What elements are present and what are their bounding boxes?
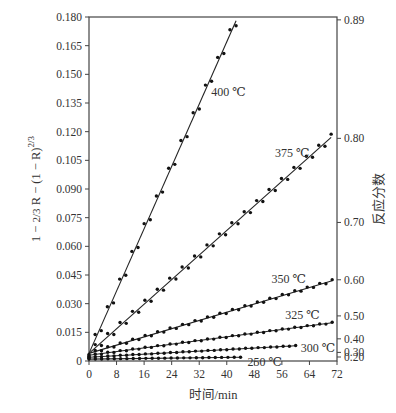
data-point (281, 327, 284, 330)
y-tick-label: 0.090 (56, 183, 82, 195)
data-point (106, 345, 109, 348)
data-point (206, 337, 209, 340)
data-point (106, 357, 109, 360)
data-point (193, 254, 196, 257)
series-label: 325 ℃ (285, 308, 319, 322)
right-tick-label: 0.60 (344, 274, 364, 286)
data-point (231, 334, 234, 337)
data-point (224, 336, 227, 339)
data-point (256, 346, 259, 349)
data-point (181, 350, 184, 353)
data-point (157, 356, 160, 359)
data-point (156, 344, 159, 347)
data-point (182, 356, 185, 359)
data-point (206, 315, 209, 318)
data-point (212, 316, 215, 319)
data-point (231, 308, 234, 311)
right-tick-label: 0.40 (344, 333, 364, 345)
data-point (181, 341, 184, 344)
data-point (198, 107, 201, 110)
data-point (207, 356, 210, 359)
data-point (94, 343, 97, 346)
y-tick-label: 0.135 (56, 97, 82, 109)
data-point (216, 56, 219, 59)
x-tick-label: 40 (221, 368, 233, 380)
data-point (149, 300, 152, 303)
data-point (94, 349, 97, 352)
data-point (118, 341, 121, 344)
series-label: 350 ℃ (272, 272, 306, 286)
data-point (162, 330, 165, 333)
data-point (275, 345, 278, 348)
data-point (163, 356, 166, 359)
data-point (113, 357, 116, 360)
data-point (175, 351, 178, 354)
right-tick-label: 0.70 (344, 216, 364, 228)
data-point (218, 311, 221, 314)
data-point (94, 357, 97, 360)
data-point (224, 233, 227, 236)
x-tick-label: 64 (304, 368, 316, 380)
data-point (287, 293, 290, 296)
data-point (255, 199, 258, 202)
data-point (299, 326, 302, 329)
data-point (199, 255, 202, 258)
data-point (231, 347, 234, 350)
data-point (249, 211, 252, 214)
y-tick-label: 0.150 (56, 68, 82, 80)
data-point (262, 331, 265, 334)
data-point (222, 52, 225, 55)
data-point (306, 285, 309, 288)
data-point (162, 288, 165, 291)
data-point (263, 346, 266, 349)
data-point (230, 221, 233, 224)
data-point (238, 347, 241, 350)
data-point (193, 319, 196, 322)
data-point (161, 190, 164, 193)
y-tick-label: 0.060 (56, 240, 82, 252)
series-label: 400 ℃ (211, 85, 245, 99)
series-375c: 375 ℃ (87, 132, 333, 358)
data-point (137, 338, 140, 341)
data-point (324, 282, 327, 285)
data-point (144, 352, 147, 355)
data-point (239, 356, 242, 359)
data-point (281, 293, 284, 296)
data-point (131, 310, 134, 313)
series-400c: 400 ℃ (87, 21, 245, 360)
data-point (193, 339, 196, 342)
data-point (118, 349, 121, 352)
data-point (136, 246, 139, 249)
right-tick-label: 0.80 (344, 132, 364, 144)
y-axis-label: 1 − 2/3 R − (1 − R)2/3 (26, 135, 43, 242)
data-point (250, 347, 253, 350)
data-point (200, 349, 203, 352)
data-point (218, 336, 221, 339)
data-point (318, 282, 321, 285)
data-point (119, 354, 122, 357)
data-series: 400 ℃375 ℃350 ℃325 ℃300 ℃250 ℃ (87, 21, 335, 369)
y-tick-label: 0.180 (56, 11, 82, 23)
data-point (214, 356, 217, 359)
data-point (168, 342, 171, 345)
data-point (124, 274, 127, 277)
data-point (112, 333, 115, 336)
data-point (204, 83, 207, 86)
data-point (280, 177, 283, 180)
kinetics-chart: 00.0150.0300.0450.0600.0750.0900.1050.12… (0, 0, 396, 413)
data-point (106, 305, 109, 308)
series-label: 250 ℃ (247, 355, 281, 369)
data-point (187, 323, 190, 326)
data-point (293, 289, 296, 292)
data-point (156, 288, 159, 291)
data-point (87, 357, 90, 360)
data-point (137, 311, 140, 314)
data-point (173, 163, 176, 166)
data-point (210, 80, 213, 83)
data-point (150, 334, 153, 337)
data-point (169, 356, 172, 359)
data-point (100, 349, 103, 352)
data-point (137, 353, 140, 356)
data-point (299, 289, 302, 292)
x-tick-label: 24 (166, 368, 178, 380)
